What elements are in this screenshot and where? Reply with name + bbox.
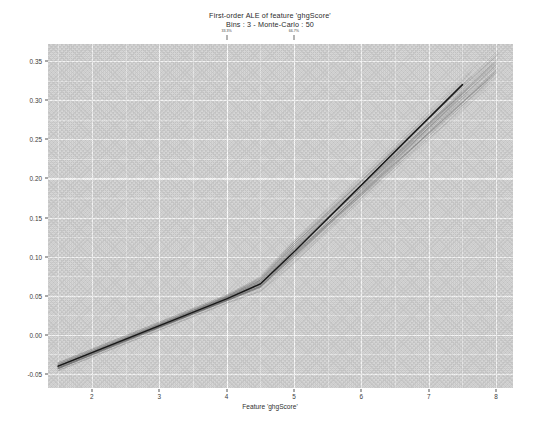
- y-tick-label: 0.30: [30, 97, 42, 104]
- monte-carlo-curve: [58, 87, 469, 364]
- monte-carlo-curve: [58, 92, 468, 364]
- chart-title-block: First-order ALE of feature 'ghgScore' Bi…: [0, 11, 540, 30]
- monte-carlo-curve: [58, 81, 464, 366]
- monte-carlo-curve: [58, 93, 462, 366]
- monte-carlo-curve: [58, 76, 472, 363]
- x-tick-label: 4: [225, 393, 229, 400]
- quantile-marker-1-tick: [226, 35, 227, 40]
- y-tick-label: 0.00: [30, 331, 42, 338]
- x-tick-mark: [428, 389, 429, 392]
- monte-carlo-curve: [58, 61, 496, 369]
- x-tick-mark: [91, 389, 92, 392]
- x-tick-label: 3: [157, 393, 161, 400]
- monte-carlo-curve: [58, 66, 497, 362]
- monte-carlo-curve: [58, 51, 498, 368]
- monte-carlo-curve: [58, 70, 472, 368]
- x-axis-title: Feature 'ghgScore': [0, 403, 540, 410]
- quantile-marker-2-label: 66.7%: [289, 29, 299, 33]
- monte-carlo-curve: [58, 59, 496, 368]
- monte-carlo-curve: [58, 91, 466, 367]
- y-tick-mark: [45, 139, 48, 140]
- y-tick-label: 0.15: [30, 214, 42, 221]
- x-tick-label: 8: [494, 393, 498, 400]
- x-tick-label: 7: [427, 393, 431, 400]
- y-tick-label: 0.05: [30, 292, 42, 299]
- x-tick-label: 6: [360, 393, 364, 400]
- y-tick-label: 0.20: [30, 175, 42, 182]
- y-tick-mark: [45, 256, 48, 257]
- monte-carlo-curve: [58, 54, 498, 366]
- monte-carlo-curve: [58, 78, 469, 366]
- ale-curves: [48, 44, 513, 388]
- monte-carlo-curve: [58, 70, 496, 368]
- y-tick-mark: [45, 295, 48, 296]
- monte-carlo-curve: [58, 97, 461, 367]
- monte-carlo-curve: [58, 83, 469, 369]
- monte-carlo-curve: [58, 63, 497, 362]
- monte-carlo-curve: [58, 59, 498, 365]
- x-tick-mark: [226, 389, 227, 392]
- ale-main-line: [58, 85, 462, 366]
- monte-carlo-curve: [58, 44, 499, 366]
- monte-carlo-curve: [58, 54, 498, 366]
- monte-carlo-curve: [58, 62, 497, 365]
- monte-carlo-curve: [58, 95, 461, 368]
- monte-carlo-curve: [58, 73, 471, 366]
- x-tick-mark: [293, 389, 294, 392]
- monte-carlo-curve: [58, 77, 493, 366]
- monte-carlo-curve: [58, 63, 495, 369]
- y-tick-mark: [45, 217, 48, 218]
- monte-carlo-curve: [58, 62, 496, 367]
- quantile-annotation-layer: 33.3%66.7%: [0, 29, 540, 41]
- y-tick-mark: [45, 178, 48, 179]
- monte-carlo-curve: [58, 82, 488, 371]
- y-tick-mark: [45, 100, 48, 101]
- y-tick-label: -0.05: [27, 370, 42, 377]
- x-tick-mark: [496, 389, 497, 392]
- y-tick-label: 0.25: [30, 136, 42, 143]
- y-tick-label: 0.35: [30, 58, 42, 65]
- monte-carlo-curve: [58, 88, 463, 367]
- chart-title: First-order ALE of feature 'ghgScore': [0, 11, 540, 20]
- monte-carlo-curve: [58, 59, 493, 364]
- y-tick-mark: [45, 61, 48, 62]
- monte-carlo-curve: [58, 68, 494, 369]
- x-tick-mark: [159, 389, 160, 392]
- y-tick-label: 0.10: [30, 253, 42, 260]
- plot-panel: [48, 44, 513, 388]
- quantile-marker-1-label: 33.3%: [221, 29, 231, 33]
- monte-carlo-curve: [58, 64, 492, 368]
- monte-carlo-curve: [58, 53, 498, 368]
- y-tick-mark: [45, 373, 48, 374]
- monte-carlo-curve: [58, 96, 466, 371]
- monte-carlo-curve: [58, 77, 495, 364]
- y-tick-mark: [45, 334, 48, 335]
- ale-plot-figure: First-order ALE of feature 'ghgScore' Bi…: [0, 0, 540, 426]
- x-tick-label: 5: [292, 393, 296, 400]
- quantile-marker-2-tick: [293, 35, 294, 40]
- monte-carlo-curve: [58, 92, 462, 366]
- x-tick-label: 2: [90, 393, 94, 400]
- x-tick-mark: [361, 389, 362, 392]
